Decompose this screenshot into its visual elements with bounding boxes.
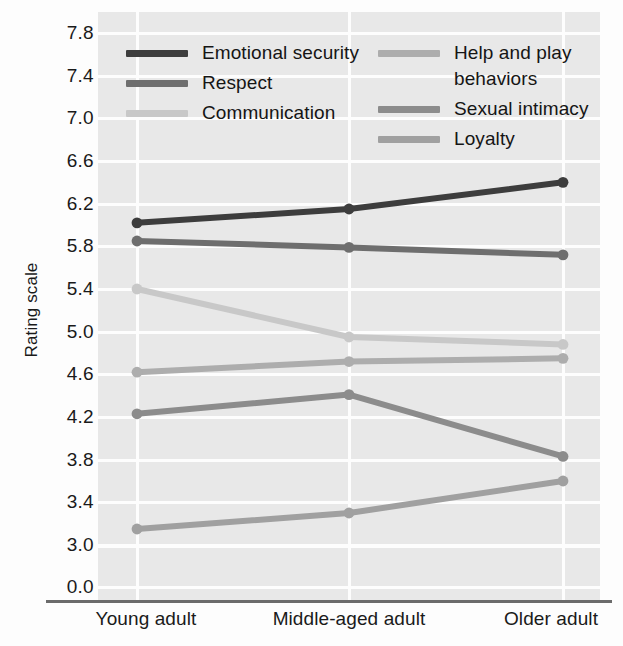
legend-item[interactable]: Respect — [126, 70, 376, 96]
legend-column-left: Emotional securityRespectCommunication — [126, 40, 376, 130]
legend-item-label: Emotional security — [202, 40, 359, 66]
y-tick-label: 0.0 — [50, 576, 94, 598]
legend-item[interactable]: Sexual intimacy — [378, 96, 598, 122]
legend-item-label: Respect — [202, 70, 272, 96]
x-axis-line — [46, 600, 612, 603]
y-tick-label: 3.4 — [50, 491, 94, 513]
legend-color-swatch — [126, 110, 188, 117]
legend-color-swatch — [126, 50, 188, 57]
y-tick-label: 3.0 — [50, 534, 94, 556]
y-axis-title: Rating scale — [22, 230, 42, 390]
y-tick-label: 3.8 — [50, 449, 94, 471]
legend-color-swatch — [378, 50, 440, 57]
x-tick-label: Middle-aged adult — [273, 608, 426, 630]
y-tick-label: 7.4 — [50, 65, 94, 87]
y-tick-label: 5.4 — [50, 278, 94, 300]
legend-color-swatch — [126, 80, 188, 87]
legend-item-label: Loyalty — [454, 126, 515, 152]
y-tick-label: 5.0 — [50, 321, 94, 343]
x-tick-label: Young adult — [96, 608, 197, 630]
chart-figure: Rating scale 7.87.47.06.66.25.85.45.04.6… — [0, 0, 623, 646]
legend-item-label: Sexual intimacy — [454, 96, 589, 122]
y-tick-label: 6.6 — [50, 150, 94, 172]
legend-color-swatch — [378, 136, 440, 143]
y-tick-label: 5.8 — [50, 235, 94, 257]
legend-item-label: Help and play behaviors — [454, 40, 598, 92]
legend-color-swatch — [378, 106, 440, 113]
legend-item[interactable]: Help and play behaviors — [378, 40, 598, 92]
x-tick-label: Older adult — [504, 608, 598, 630]
legend-item[interactable]: Communication — [126, 100, 376, 126]
y-axis-tick-labels: 7.87.47.06.66.25.85.45.04.64.23.83.43.00… — [46, 0, 94, 646]
legend-item[interactable]: Loyalty — [378, 126, 598, 152]
legend-column-right: Help and play behaviorsSexual intimacyLo… — [378, 40, 598, 156]
y-tick-label: 7.8 — [50, 22, 94, 44]
y-tick-label: 4.2 — [50, 406, 94, 428]
legend-item-label: Communication — [202, 100, 335, 126]
chart-legend: Emotional securityRespectCommunication H… — [126, 40, 596, 148]
y-tick-label: 6.2 — [50, 193, 94, 215]
y-tick-label: 7.0 — [50, 107, 94, 129]
legend-item[interactable]: Emotional security — [126, 40, 376, 66]
y-tick-label: 4.6 — [50, 363, 94, 385]
